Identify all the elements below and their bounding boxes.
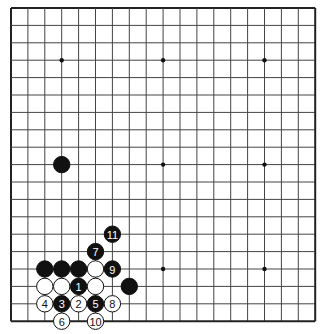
black-stone <box>54 261 70 277</box>
move-number: 7 <box>92 246 98 258</box>
white-stone-move-10: 10 <box>87 313 103 329</box>
black-stone-move-11: 11 <box>104 226 120 242</box>
white-stone-move-4: 4 <box>37 296 53 312</box>
star-point <box>262 58 266 62</box>
star-point <box>161 162 165 166</box>
black-stone-move-9: 9 <box>104 261 120 277</box>
white-stone <box>87 261 103 277</box>
white-stone-move-2: 2 <box>70 296 86 312</box>
white-stone-move-6: 6 <box>54 313 70 329</box>
move-number: 6 <box>59 316 65 328</box>
move-number: 10 <box>89 316 101 328</box>
star-point <box>262 267 266 271</box>
black-stone-move-3: 3 <box>54 296 70 312</box>
move-number: 8 <box>109 298 115 310</box>
move-number: 2 <box>76 298 82 310</box>
black-stone <box>54 156 70 172</box>
black-stone-move-7: 7 <box>87 243 103 259</box>
black-stone <box>37 261 53 277</box>
black-stone-move-1: 1 <box>70 278 86 294</box>
move-number: 5 <box>92 298 98 310</box>
move-number: 11 <box>107 229 118 241</box>
black-stone-move-5: 5 <box>87 296 103 312</box>
white-stone <box>87 278 103 294</box>
move-number: 9 <box>109 264 115 276</box>
move-number: 1 <box>76 281 82 293</box>
move-number: 4 <box>42 298 48 310</box>
go-board: 9143258610711 <box>0 0 323 334</box>
star-point <box>161 267 165 271</box>
white-stone <box>37 278 53 294</box>
white-stone-move-8: 8 <box>104 296 120 312</box>
black-stone <box>70 261 86 277</box>
black-stone <box>121 278 137 294</box>
star-point <box>161 58 165 62</box>
white-stone <box>54 278 70 294</box>
move-number: 3 <box>59 298 65 310</box>
star-point <box>60 58 64 62</box>
star-point <box>262 162 266 166</box>
